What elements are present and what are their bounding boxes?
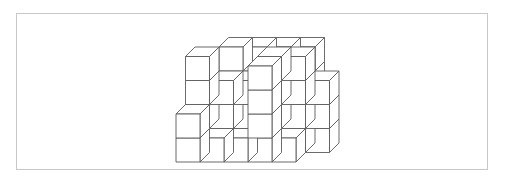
cube-front-face xyxy=(186,81,210,105)
cube-front-face xyxy=(176,138,200,162)
cube-stack-diagram xyxy=(0,0,505,181)
cube-front-face xyxy=(248,90,272,114)
cube-front-face xyxy=(219,47,243,71)
cube-front-face xyxy=(186,57,210,81)
cube-front-face xyxy=(176,114,200,138)
cube-front-face xyxy=(248,66,272,90)
cube-front-face xyxy=(248,114,272,138)
